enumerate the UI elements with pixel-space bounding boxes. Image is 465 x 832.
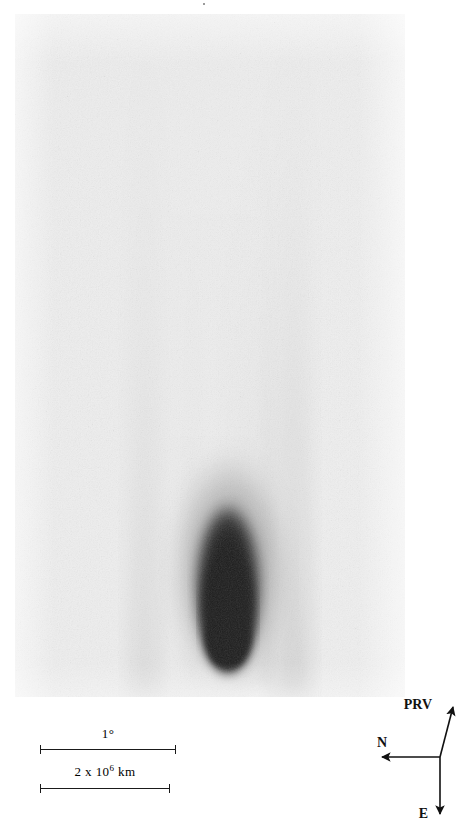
linear-scale-rule bbox=[40, 784, 170, 793]
north-arrow-label: N bbox=[377, 735, 387, 750]
east-arrow-label: E bbox=[419, 806, 428, 821]
linear-scale-cap-right bbox=[169, 784, 170, 793]
comet-photographic-plate bbox=[15, 14, 405, 697]
angular-scale-rule bbox=[40, 745, 176, 754]
prv-arrow-icon bbox=[440, 707, 453, 757]
scan-dust-speck bbox=[203, 3, 205, 5]
angular-scale-line bbox=[40, 749, 176, 750]
angular-scale-cap-right bbox=[175, 745, 176, 754]
plate-image bbox=[15, 14, 405, 697]
angular-scale-cap-left bbox=[40, 745, 41, 754]
prv-arrow-label: PRV bbox=[404, 697, 432, 712]
plate-vignette-vertical bbox=[15, 14, 405, 697]
linear-scale-label: 2 x 106 km bbox=[40, 765, 170, 778]
linear-scale-line bbox=[40, 788, 170, 789]
angular-scale-label: 1° bbox=[40, 727, 176, 740]
linear-scale-cap-left bbox=[40, 784, 41, 793]
orientation-compass: PRV N E bbox=[360, 692, 465, 832]
